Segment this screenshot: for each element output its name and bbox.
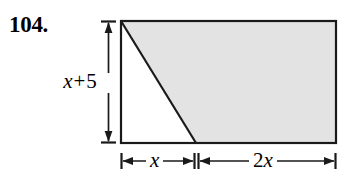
height-label-operator: + xyxy=(72,69,86,93)
bottom-dim-x-arrowhead-right xyxy=(183,157,194,165)
bottom-label-x-variable: x xyxy=(150,148,159,172)
height-label-constant: 5 xyxy=(86,69,97,93)
shaded-trapezoid-region xyxy=(121,21,336,143)
bottom-dim-2x-arrowhead-right xyxy=(324,157,335,165)
height-label: x+5 xyxy=(55,69,105,93)
geometry-figure: 104. xyxy=(0,0,344,174)
bottom-label-x: x xyxy=(146,150,163,171)
figure-drawing xyxy=(0,0,344,174)
height-dim-arrowhead-up xyxy=(105,22,113,33)
bottom-label-2x: 2x xyxy=(249,150,277,171)
bottom-dim-x-arrowhead-left xyxy=(123,157,134,165)
height-dim-arrowhead-down xyxy=(105,131,113,142)
bottom-label-2x-variable: x xyxy=(264,148,273,172)
bottom-label-2x-coefficient: 2 xyxy=(253,148,264,172)
bottom-dim-2x-arrowhead-left xyxy=(200,157,211,165)
